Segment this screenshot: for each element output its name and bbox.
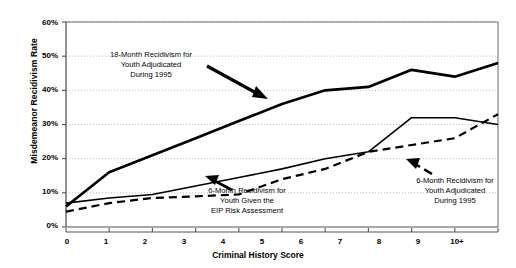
plot-canvas	[0, 0, 516, 268]
series-lines	[66, 63, 498, 212]
arrow-6-month-head	[406, 158, 420, 169]
series-line-1	[66, 118, 498, 203]
gridlines	[66, 22, 498, 193]
series-line-0	[66, 63, 498, 207]
arrow-18-month	[207, 66, 258, 94]
axes	[62, 22, 498, 232]
arrow-6-month	[415, 164, 432, 174]
arrow-18-month-head	[252, 86, 268, 99]
recidivism-line-chart: Misdemeanor Recidivism Rate 60% 50% 40% …	[0, 0, 516, 268]
